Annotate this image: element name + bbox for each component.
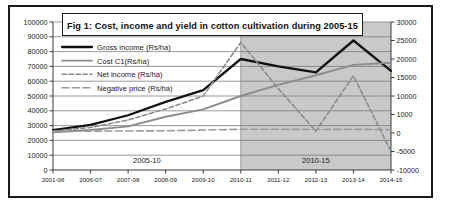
x-axis-category-label: 2009-10 bbox=[192, 176, 215, 183]
x-axis-category-label: 2010-11 bbox=[230, 176, 253, 183]
figure-container: 0100002000030000400005000060000700008000… bbox=[0, 0, 449, 208]
x-axis-category-label: 2012-13 bbox=[305, 176, 328, 183]
right-axis-tick-label: 20000 bbox=[397, 55, 417, 64]
band-label-2010-15: 2010-15 bbox=[302, 156, 330, 165]
right-axis-tick-label: -10000 bbox=[397, 166, 419, 175]
x-axis-category-label: 2011-12 bbox=[267, 176, 290, 183]
right-axis-tick-label: 1000 bbox=[397, 110, 413, 119]
left-axis-tick-label: 0 bbox=[44, 166, 48, 175]
left-axis-tick-label: 30000 bbox=[28, 121, 48, 130]
left-axis-tick-label: 50000 bbox=[28, 92, 48, 101]
left-axis-tick-label: 20000 bbox=[28, 136, 48, 145]
left-axis-tick-label: 100000 bbox=[24, 18, 48, 27]
left-axis-tick-label: 70000 bbox=[28, 62, 48, 71]
chart-title: Fig 1: Cost, income and yield in cotton … bbox=[67, 21, 358, 31]
band-label-2005-10: 2005-10 bbox=[133, 156, 161, 165]
right-axis-tick-label: 15000 bbox=[397, 73, 417, 82]
x-axis-category-label: 2008-09 bbox=[154, 176, 177, 183]
legend-label-0: Gross income (Rs/ha) bbox=[97, 43, 171, 52]
left-axis-tick-label: 80000 bbox=[28, 47, 48, 56]
right-axis-tick-label: 25000 bbox=[397, 36, 417, 45]
right-axis-tick-label: 30000 bbox=[397, 18, 417, 27]
right-axis-tick-label: 0 bbox=[397, 129, 401, 138]
chart-title-box: Fig 1: Cost, income and yield in cotton … bbox=[62, 13, 363, 36]
left-axis-tick-label: 90000 bbox=[28, 32, 48, 41]
right-axis-tick-label: -5000 bbox=[397, 147, 415, 156]
x-axis-category-label: 2001-06 bbox=[42, 176, 65, 183]
x-axis-category-label: 2014-15 bbox=[380, 176, 403, 183]
right-axis-tick-label: 10000 bbox=[397, 92, 417, 101]
x-axis-category-label: 2007-08 bbox=[117, 176, 140, 183]
legend-label-2: Net income (Rs/ha) bbox=[97, 70, 163, 79]
left-axis-tick-label: 60000 bbox=[28, 77, 48, 86]
legend-label-1: Cost C1(Rs/ha) bbox=[97, 57, 150, 66]
left-axis-tick-label: 40000 bbox=[28, 106, 48, 115]
x-axis-category-label: 2006-07 bbox=[79, 176, 102, 183]
x-axis-category-label: 2013-14 bbox=[342, 176, 365, 183]
legend-label-3: Negative price (Rs/ha) bbox=[97, 84, 173, 93]
left-axis-tick-label: 10000 bbox=[28, 151, 48, 160]
